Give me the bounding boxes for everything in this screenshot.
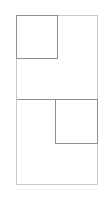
top-panel-highlight-square [16,15,58,59]
footer-divider [16,189,98,190]
bottom-panel-highlight-square [55,99,98,144]
